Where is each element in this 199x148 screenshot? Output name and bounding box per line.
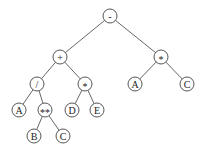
tree-edge <box>49 116 59 130</box>
tree-node: D <box>65 103 79 117</box>
tree-node: B <box>27 129 41 143</box>
tree-edge <box>37 116 43 129</box>
tree-edge <box>115 20 155 52</box>
node-label: ** <box>40 107 50 118</box>
tree-edge <box>23 90 33 104</box>
node-label: * <box>83 81 88 92</box>
node-label: * <box>159 54 164 65</box>
tree-node: E <box>90 103 104 117</box>
tree-edge <box>75 90 82 103</box>
tree-node: * <box>78 77 92 92</box>
tree-edge <box>65 62 80 79</box>
node-label: B <box>31 131 38 142</box>
node-label: + <box>57 52 63 63</box>
node-label: C <box>60 131 67 142</box>
tree-node: ** <box>38 103 52 118</box>
tree-edge <box>140 62 156 79</box>
expression-tree-diagram: -+*/*ACA**DEBC <box>0 0 199 148</box>
node-label: - <box>108 11 111 22</box>
node-label: A <box>131 79 139 90</box>
node-label: A <box>15 105 23 116</box>
tree-node: + <box>53 50 67 64</box>
node-label: E <box>94 105 100 116</box>
node-label: D <box>68 105 75 116</box>
tree-node: A <box>12 103 26 117</box>
tree-edge <box>88 90 94 103</box>
tree-node: * <box>154 50 168 65</box>
node-label: / <box>36 79 39 90</box>
tree-node: C <box>56 129 70 143</box>
tree-node: / <box>30 77 44 91</box>
tree-edge <box>166 62 182 79</box>
tree-edge <box>65 20 104 52</box>
tree-node: A <box>128 77 142 91</box>
node-label: C <box>184 79 191 90</box>
tree-edge <box>42 62 56 78</box>
tree-node: - <box>103 9 117 23</box>
tree-edge <box>39 91 43 104</box>
tree-node: C <box>180 77 194 91</box>
